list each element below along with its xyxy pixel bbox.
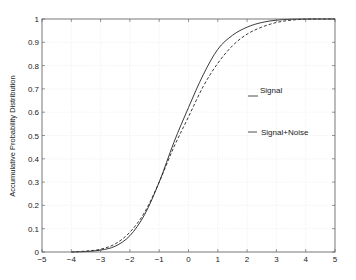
x-tick-label: 1 [216,255,221,264]
legend: Signal Signal+Noise [248,86,309,137]
y-tick-label: 0.8 [28,62,40,71]
x-tick-label: 2 [245,255,250,264]
x-tick-label: 0 [186,255,191,264]
y-tick-label: 0.3 [28,178,40,187]
x-tick-label: −1 [155,255,165,264]
x-tick-label: 4 [303,255,308,264]
y-tick-label: 0.9 [28,38,40,47]
y-tick-label: 0.5 [28,132,40,141]
x-tick-label: −4 [67,255,77,264]
x-tick-label: −3 [96,255,106,264]
y-axis-title: Accumulative Probability Distribution [8,75,17,196]
y-tick-label: 0.4 [28,155,40,164]
x-tick-labels: −5−4−3−2−1012345 [37,255,337,264]
y-tick-label: 0.6 [28,108,40,117]
legend-signal-noise-label: Signal+Noise [261,128,309,137]
x-tick-label: 3 [274,255,279,264]
y-tick-labels: 00.10.20.30.40.50.60.70.80.91 [28,15,40,257]
cdf-chart: −5−4−3−2−1012345 00.10.20.30.40.50.60.70… [0,0,356,280]
x-tick-label: 5 [333,255,338,264]
y-tick-label: 0 [35,248,40,257]
y-tick-label: 0.2 [28,201,40,210]
y-tick-label: 1 [35,15,40,24]
y-tick-label: 0.7 [28,85,40,94]
legend-signal-label: Signal [260,86,282,95]
y-tick-label: 0.1 [28,225,40,234]
x-tick-label: −2 [125,255,135,264]
